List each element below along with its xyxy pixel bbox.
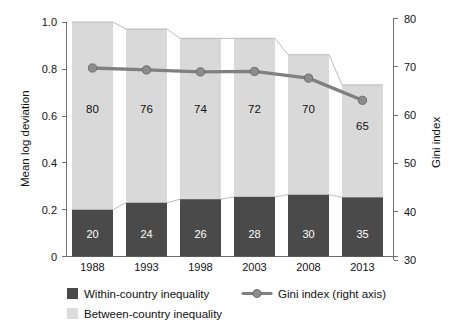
xtick-label-2008: 2008: [296, 261, 320, 273]
legend-item-gini-index[interactable]: Gini index (right axis): [243, 288, 386, 300]
label-between-1988: 80: [86, 103, 99, 115]
label-within-2003: 28: [248, 228, 260, 240]
xtick-label-1993: 1993: [134, 261, 158, 273]
y2-axis-title: Gini index: [430, 117, 442, 168]
bar-top-connectors: [72, 22, 383, 85]
legend-item-within-country[interactable]: Within-country inequality: [67, 288, 210, 300]
label-between-2008: 70: [302, 103, 315, 115]
ytick-label-2: 0.8: [42, 63, 57, 75]
legend-label-within-country: Within-country inequality: [84, 288, 210, 300]
legend-label-between-country: Between-country inequality: [84, 308, 222, 320]
label-between-1993: 76: [140, 103, 153, 115]
bar-dark-2003: [234, 197, 275, 257]
legend-marker-gini-icon: [253, 290, 261, 298]
chart-legend: Within-country inequality Gini index (ri…: [67, 288, 386, 320]
xtick-label-2013: 2013: [350, 261, 374, 273]
y2tick-label-4: 50: [404, 157, 416, 169]
gini-marker-2013: [358, 96, 366, 104]
y-axis-title: Mean log deviation: [19, 90, 31, 187]
gini-marker-2003: [250, 67, 258, 75]
y2tick-label-6: 30: [404, 254, 416, 266]
legend-item-between-country[interactable]: Between-country inequality: [67, 308, 222, 320]
legend-swatch-within-country-icon: [67, 288, 78, 299]
label-between-2003: 72: [248, 103, 261, 115]
ytick-label-1: 1.0: [42, 16, 57, 28]
label-within-1993: 24: [140, 228, 152, 240]
bar-dark-2008: [288, 195, 329, 257]
inequality-stacked-bar-chart: 1.0 0.8 0.6 0.4 0.2 0 80 70 60 50 40 30 …: [0, 0, 453, 328]
label-within-1998: 26: [194, 228, 206, 240]
gini-marker-1998: [196, 68, 204, 76]
bar-light-2003: [234, 38, 275, 196]
gini-marker-1993: [142, 66, 150, 74]
right-axis-ticks: [394, 19, 399, 261]
ytick-label-4: 0.4: [42, 157, 57, 169]
label-within-2008: 30: [302, 228, 314, 240]
bar-light-1988: [72, 22, 113, 210]
label-within-2013: 35: [356, 228, 368, 240]
gini-marker-2008: [304, 74, 312, 82]
y2tick-label-2: 70: [404, 61, 416, 73]
bar-dark-2013: [342, 197, 383, 256]
xtick-label-1988: 1988: [80, 261, 104, 273]
within-country-bars: [72, 195, 383, 257]
bar-light-1998: [180, 38, 221, 199]
chart-container: 1.0 0.8 0.6 0.4 0.2 0 80 70 60 50 40 30 …: [0, 0, 453, 328]
ytick-label-3: 0.6: [42, 110, 57, 122]
left-axis-ticks: [62, 23, 67, 257]
between-country-bars: [72, 22, 383, 210]
legend-label-gini-index: Gini index (right axis): [278, 288, 386, 300]
xtick-label-2003: 2003: [242, 261, 266, 273]
bar-light-1993: [126, 29, 167, 203]
xtick-label-1998: 1998: [188, 261, 212, 273]
label-within-1988: 20: [86, 228, 98, 240]
y2tick-label-3: 60: [404, 109, 416, 121]
x-axis-tick-labels: 1988 1993 1998 2003 2008 2013: [80, 261, 374, 273]
label-between-1998: 74: [194, 103, 207, 115]
ytick-label-5: 0.2: [42, 204, 57, 216]
legend-swatch-between-country-icon: [67, 308, 78, 319]
y2tick-label-5: 40: [404, 206, 416, 218]
y2tick-label-1: 80: [404, 13, 416, 25]
ytick-label-6: 0: [51, 251, 57, 263]
gini-marker-1988: [88, 64, 96, 72]
label-between-2013: 65: [356, 120, 369, 132]
